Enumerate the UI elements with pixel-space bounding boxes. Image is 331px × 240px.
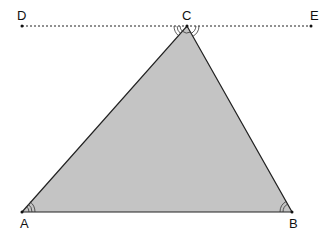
- label-c: C: [182, 9, 191, 22]
- label-a: A: [20, 217, 29, 230]
- triangle-abc: [22, 26, 292, 212]
- label-b: B: [289, 217, 298, 230]
- label-e: E: [310, 9, 319, 22]
- geometry-diagram: [0, 0, 331, 240]
- label-d: D: [17, 9, 26, 22]
